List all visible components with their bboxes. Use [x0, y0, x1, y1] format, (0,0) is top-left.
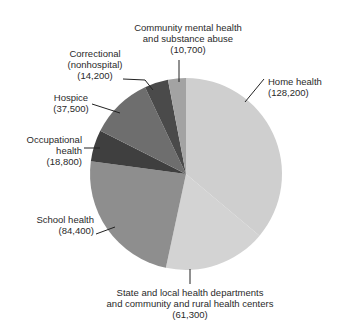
label-state-value: (61,300)	[88, 309, 292, 320]
label-occupational-line2: health	[10, 145, 82, 156]
leader-hospice	[92, 104, 120, 113]
label-correctional: Correctional (nonhospital) (14,200)	[62, 48, 128, 81]
label-occupational-line1: Occupational	[10, 134, 82, 145]
label-hospice-line1: Hospice	[46, 92, 96, 103]
label-home-value: (128,200)	[268, 87, 340, 98]
label-school: School health (84,400)	[18, 214, 94, 236]
label-hospice-value: (37,500)	[46, 103, 96, 114]
label-hospice: Hospice (37,500)	[46, 92, 96, 114]
label-home: Home health (128,200)	[268, 76, 340, 98]
label-occupational: Occupational health (18,800)	[10, 134, 82, 167]
label-state-line1: State and local health departments	[88, 287, 292, 298]
label-state-line2: and community and rural health centers	[88, 298, 292, 309]
label-community-line2: and substance abuse	[128, 33, 248, 44]
label-school-line1: School health	[18, 214, 94, 225]
label-correctional-line1: Correctional	[62, 48, 128, 59]
label-state: State and local health departments and c…	[88, 287, 292, 320]
label-correctional-line2: (nonhospital)	[62, 59, 128, 70]
label-correctional-value: (14,200)	[62, 70, 128, 81]
label-school-value: (84,400)	[18, 225, 94, 236]
label-community-value: (10,700)	[128, 44, 248, 55]
label-home-line1: Home health	[268, 76, 340, 87]
label-community: Community mental health and substance ab…	[128, 22, 248, 55]
label-occupational-value: (18,800)	[10, 156, 82, 167]
label-community-line1: Community mental health	[128, 22, 248, 33]
pie-slices	[90, 78, 282, 270]
leader-home	[245, 79, 264, 102]
